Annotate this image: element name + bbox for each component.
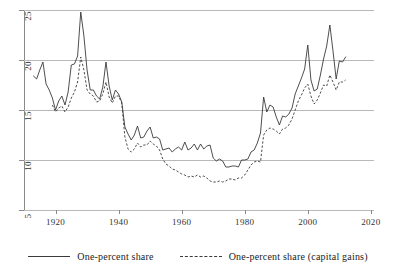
gridline-y bbox=[24, 210, 374, 211]
x-tick-label: 1960 bbox=[172, 217, 191, 227]
series-line-one-percent-share-capital-gains bbox=[52, 57, 345, 182]
series-line-one-percent-share bbox=[33, 12, 345, 167]
y-tick-label: 25 bbox=[23, 9, 33, 23]
legend-swatch-dashed-icon bbox=[180, 256, 222, 257]
x-tick-mark bbox=[308, 210, 309, 214]
y-tick-label: 5 bbox=[23, 209, 33, 223]
series-group bbox=[24, 10, 374, 210]
x-tick-mark bbox=[245, 210, 246, 214]
chart-legend: One-percent share One-percent share (cap… bbox=[0, 243, 396, 269]
chart-figure: 510152025 192019401960198020002020 One-p… bbox=[0, 0, 396, 269]
x-tick-mark bbox=[56, 210, 57, 214]
x-tick-label: 1940 bbox=[109, 217, 128, 227]
x-tick-label: 1980 bbox=[235, 217, 254, 227]
x-tick-label: 2000 bbox=[298, 217, 317, 227]
x-tick-mark bbox=[371, 210, 372, 214]
legend-item-one-percent-share: One-percent share bbox=[28, 251, 153, 262]
y-tick-label: 20 bbox=[23, 59, 33, 73]
x-tick-mark bbox=[182, 210, 183, 214]
legend-swatch-solid-icon bbox=[28, 256, 70, 257]
x-tick-label: 1920 bbox=[46, 217, 65, 227]
legend-item-one-percent-share-capital-gains: One-percent share (capital gains) bbox=[180, 251, 368, 262]
legend-label: One-percent share (capital gains) bbox=[229, 251, 368, 262]
legend-label: One-percent share bbox=[77, 251, 153, 262]
x-tick-label: 2020 bbox=[361, 217, 380, 227]
plot-area bbox=[24, 10, 374, 210]
y-tick-label: 10 bbox=[23, 159, 33, 173]
x-tick-mark bbox=[119, 210, 120, 214]
y-tick-label: 15 bbox=[23, 109, 33, 123]
